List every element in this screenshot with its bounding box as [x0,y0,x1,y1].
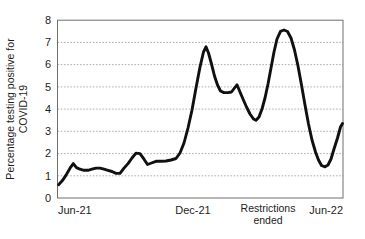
y-tick-3: 3 [45,125,51,137]
y-tick-0: 0 [45,192,51,204]
annotation-line2: ended [253,214,282,226]
series-line-covid-positivity [59,30,343,185]
y-tick-4: 4 [45,103,51,115]
x-tick-jun-21: Jun-21 [58,204,92,216]
y-tick-6: 6 [45,58,51,70]
y-tick-5: 5 [45,81,51,93]
y-tick-8: 8 [45,14,51,26]
annotation-restrictions-ended: Restrictions ended [241,202,296,226]
annotation-line1: Restrictions [241,202,296,214]
chart-figure: 8 7 6 5 4 3 2 1 0 Percentage testing pos… [0,0,365,239]
x-tick-jun-22: Jun-22 [309,204,343,216]
y-axis-title: Percentage testing positive for COVID-19 [4,38,29,180]
y-axis-title-line1: Percentage testing positive for [4,38,16,180]
y-axis-title-line2: COVID-19 [17,85,29,134]
x-tick-dec-21: Dec-21 [175,204,210,216]
covid-positivity-line-chart: 8 7 6 5 4 3 2 1 0 Percentage testing pos… [0,0,365,239]
y-tick-1: 1 [45,170,51,182]
y-tick-2: 2 [45,147,51,159]
y-axis-tick-labels: 8 7 6 5 4 3 2 1 0 [45,14,51,204]
y-tick-7: 7 [45,36,51,48]
x-axis-tick-labels: Jun-21 Dec-21 Jun-22 [58,204,343,216]
